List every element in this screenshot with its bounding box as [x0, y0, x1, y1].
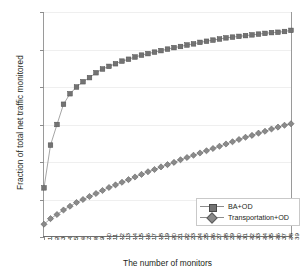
series-marker-square	[126, 57, 131, 62]
x-tick-mark	[44, 237, 45, 240]
x-tick-mark	[51, 237, 52, 240]
series-marker-diamond	[86, 193, 92, 199]
series-marker-diamond	[119, 179, 125, 185]
legend-label: BA+OD	[225, 202, 253, 211]
series-marker-square	[120, 59, 125, 64]
x-tick-mark	[181, 237, 182, 240]
series-marker-square	[282, 29, 287, 34]
series-marker-square	[165, 47, 170, 52]
series-marker-square	[185, 43, 190, 48]
series-marker-square	[100, 67, 105, 72]
series-marker-diamond	[125, 177, 131, 183]
series-marker-square	[191, 42, 196, 47]
series-marker-square	[237, 34, 242, 39]
legend-label: Transportation+OD	[225, 213, 289, 222]
series-marker-diamond	[223, 141, 229, 147]
x-tick-mark	[122, 237, 123, 240]
x-tick-mark	[116, 237, 117, 240]
x-tick-mark	[252, 237, 253, 240]
series-marker-diamond	[67, 203, 73, 209]
series-marker-diamond	[80, 196, 86, 202]
x-axis-title: The number of monitors	[43, 258, 292, 268]
series-marker-square	[159, 48, 164, 53]
series-marker-square	[276, 30, 281, 35]
series-marker-square	[139, 53, 144, 58]
series-marker-square	[243, 33, 248, 38]
x-tick-mark	[213, 237, 214, 240]
x-tick-mark	[142, 237, 143, 240]
x-tick-mark	[187, 237, 188, 240]
x-tick-mark	[265, 237, 266, 240]
series-marker-diamond	[145, 169, 151, 175]
series-marker-square	[87, 75, 92, 80]
series-marker-diamond	[164, 162, 170, 168]
chart-legend: BA+OD Transportation+OD	[196, 198, 300, 226]
x-tick-mark	[174, 237, 175, 240]
x-tick-mark	[161, 237, 162, 240]
series-marker-square	[113, 61, 118, 66]
x-tick-mark	[200, 237, 201, 240]
series-marker-square	[224, 36, 229, 41]
series-marker-diamond	[281, 122, 287, 128]
series-marker-square	[146, 51, 151, 56]
series-marker-diamond	[112, 182, 118, 188]
x-tick-mark	[194, 237, 195, 240]
series-marker-square	[172, 45, 177, 50]
series-marker-square	[198, 40, 203, 45]
series-marker-square	[81, 79, 86, 84]
x-tick-mark	[70, 237, 71, 240]
series-marker-diamond	[262, 128, 268, 134]
y-axis-title: Fraction of total net traffic monitored	[16, 13, 25, 233]
series-marker-square	[250, 33, 255, 38]
x-tick-mark	[96, 237, 97, 240]
series-marker-diamond	[184, 154, 190, 160]
series-marker-square	[42, 186, 47, 191]
x-tick-mark	[129, 237, 130, 240]
series-marker-diamond	[255, 130, 261, 136]
legend-item-transportation-od: Transportation+OD	[199, 212, 297, 223]
x-tick-mark	[83, 237, 84, 240]
series-marker-square	[68, 91, 73, 96]
series-marker-diamond	[216, 143, 222, 149]
series-marker-square	[152, 50, 157, 55]
series-marker-diamond	[275, 124, 281, 130]
series-marker-square	[204, 39, 209, 44]
x-tick-mark	[57, 237, 58, 240]
series-marker-diamond	[151, 166, 157, 172]
x-tick-mark	[259, 237, 260, 240]
series-marker-square	[74, 85, 79, 90]
x-tick-mark	[103, 237, 104, 240]
series-marker-square	[217, 37, 222, 42]
series-marker-square	[55, 122, 60, 127]
x-tick-mark	[220, 237, 221, 240]
series-marker-square	[256, 32, 261, 37]
series-marker-square	[61, 102, 66, 107]
series-marker-diamond	[203, 148, 209, 154]
series-marker-square	[178, 44, 183, 49]
series-marker-diamond	[242, 134, 248, 140]
legend-item-ba-od: BA+OD	[199, 201, 297, 212]
series-marker-square	[230, 35, 235, 40]
series-marker-diamond	[60, 207, 66, 213]
series-marker-square	[269, 30, 274, 35]
series-marker-diamond	[236, 136, 242, 142]
x-tick-mark	[77, 237, 78, 240]
x-tick-mark	[246, 237, 247, 240]
x-tick-label: 39	[293, 233, 300, 240]
series-marker-square	[289, 28, 294, 33]
legend-square-marker-icon	[199, 202, 225, 212]
series-marker-square	[133, 55, 138, 60]
x-tick-mark	[90, 237, 91, 240]
x-tick-mark	[64, 237, 65, 240]
series-marker-square	[263, 31, 268, 36]
x-tick-mark	[109, 237, 110, 240]
chart-container: Fraction of total net traffic monitored …	[0, 0, 307, 276]
x-tick-mark	[239, 237, 240, 240]
series-marker-square	[211, 38, 216, 43]
series-marker-diamond	[158, 164, 164, 170]
series-marker-diamond	[106, 184, 112, 190]
series-marker-diamond	[177, 157, 183, 163]
series-marker-diamond	[190, 152, 196, 158]
x-tick-mark	[135, 237, 136, 240]
x-tick-mark	[207, 237, 208, 240]
